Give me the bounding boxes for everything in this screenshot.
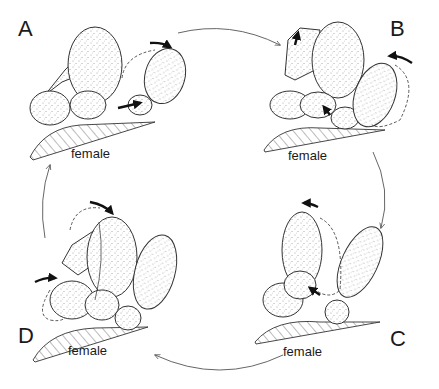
panel-label-b: B (390, 16, 405, 41)
panel-label-c: C (390, 326, 406, 351)
substrate-label-d: female (68, 343, 107, 358)
arrow-d-to-a (42, 165, 50, 238)
cycle-diagram: A female B female C female (0, 0, 439, 389)
arrow-a-to-b (178, 29, 280, 45)
substrate-label-c: female (283, 344, 322, 359)
panel-label-d: D (18, 323, 34, 348)
arrow-c-to-d (155, 355, 283, 370)
panel-c: C female (255, 203, 406, 359)
substrate-c (255, 321, 380, 344)
arrow-b-to-c (373, 152, 385, 228)
substrate-label-a: female (71, 146, 110, 161)
panel-a: A female (18, 16, 192, 161)
substrate-label-b: female (288, 148, 327, 163)
panel-label-a: A (18, 16, 33, 41)
panel-b: B female (264, 16, 412, 163)
